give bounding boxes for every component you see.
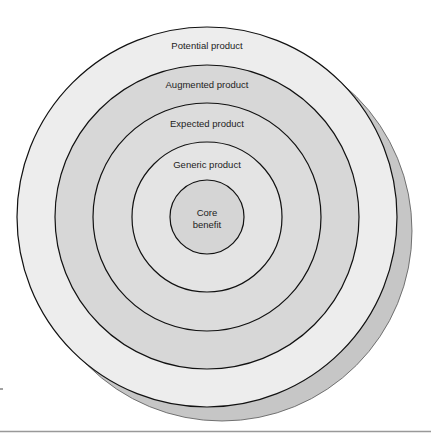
label-potential-product: Potential product bbox=[171, 40, 243, 51]
product-levels-diagram: Potential product Augmented product Expe… bbox=[0, 0, 431, 439]
label-benefit: benefit bbox=[193, 219, 222, 230]
label-generic-product: Generic product bbox=[173, 159, 241, 170]
label-augmented-product: Augmented product bbox=[166, 79, 249, 90]
label-core: Core bbox=[197, 207, 218, 218]
label-expected-product: Expected product bbox=[170, 118, 244, 129]
